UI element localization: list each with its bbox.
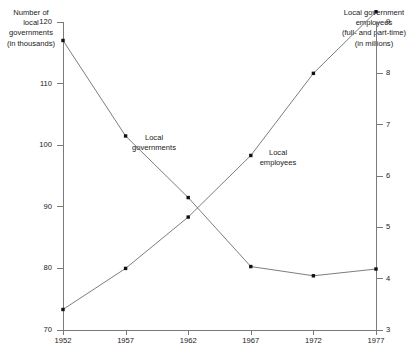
data-point-marker (374, 267, 377, 270)
data-point-marker (61, 39, 64, 42)
data-point-marker (312, 72, 315, 75)
series-label-local-governments: Local governments (118, 133, 190, 153)
data-point-marker (249, 265, 252, 268)
data-point-marker (187, 215, 190, 218)
markers-local-governments (61, 39, 377, 278)
data-point-marker (187, 196, 190, 199)
data-point-marker (124, 267, 127, 270)
line-local-employees (63, 12, 376, 310)
data-point-marker (374, 10, 377, 13)
line-local-governments (63, 40, 376, 275)
series-label-local-employees: Local employees (248, 148, 308, 168)
chart-container: Number of local governments (in thousand… (0, 0, 420, 358)
data-point-marker (61, 308, 64, 311)
markers-local-employees (61, 10, 377, 311)
data-point-marker (312, 274, 315, 277)
series-layer (0, 0, 420, 358)
